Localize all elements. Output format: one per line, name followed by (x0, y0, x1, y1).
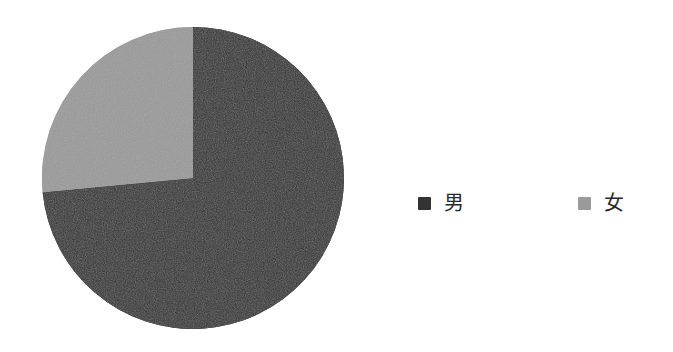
legend-swatch-female (578, 197, 591, 210)
pie-chart-svg (41, 26, 345, 330)
pie-chart (41, 26, 345, 330)
legend-label-female: 女 (604, 193, 624, 213)
legend-item-female[interactable]: 女 (578, 188, 624, 218)
pie-slice-grain (42, 27, 193, 192)
chart-legend: 男 女 (418, 188, 648, 218)
legend-item-male[interactable]: 男 (418, 188, 464, 218)
legend-swatch-male (418, 197, 431, 210)
chart-figure: 男 女 (0, 0, 673, 352)
pie-grain-overlay (42, 27, 344, 329)
legend-label-male: 男 (444, 193, 464, 213)
